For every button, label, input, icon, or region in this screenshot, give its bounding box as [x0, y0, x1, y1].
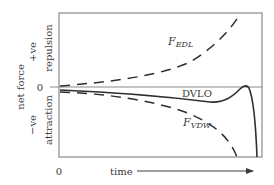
x-zero-tick: 0: [56, 166, 62, 177]
plot-frame: [59, 13, 262, 157]
f-vdw-sub: VDW: [191, 121, 212, 130]
dvlo-curve: [60, 86, 257, 157]
f-vdw-label: FVDW: [182, 116, 212, 130]
f-edl-sub: EDL: [175, 40, 194, 49]
force-time-diagram: net force +ve repulsion −ve attraction 0…: [0, 0, 274, 185]
f-vdw-main: F: [182, 116, 191, 129]
repulsion-label: repulsion: [43, 24, 54, 72]
f-edl-curve: [60, 14, 240, 86]
y-zero-tick: 0: [37, 82, 43, 93]
plus-ve-label: +ve: [27, 42, 38, 62]
f-edl-label: FEDL: [167, 35, 193, 49]
minus-ve-label: −ve: [27, 115, 38, 135]
time-label: time: [110, 166, 133, 177]
attraction-label: attraction: [43, 94, 54, 145]
f-edl-main: F: [167, 35, 176, 48]
net-force-label: net force: [15, 64, 26, 110]
dvlo-label: DVLO: [182, 88, 212, 99]
